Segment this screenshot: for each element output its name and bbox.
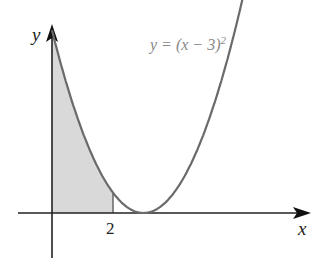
equation-text: y = (x − 3) <box>150 36 220 53</box>
y-axis-label: y <box>32 24 40 46</box>
x-axis-label: x <box>298 218 306 240</box>
equation-exponent: 2 <box>220 34 226 46</box>
x-tick-2: 2 <box>106 219 115 239</box>
shaded-area <box>52 30 113 213</box>
curve-equation: y = (x − 3)2 <box>150 34 226 54</box>
